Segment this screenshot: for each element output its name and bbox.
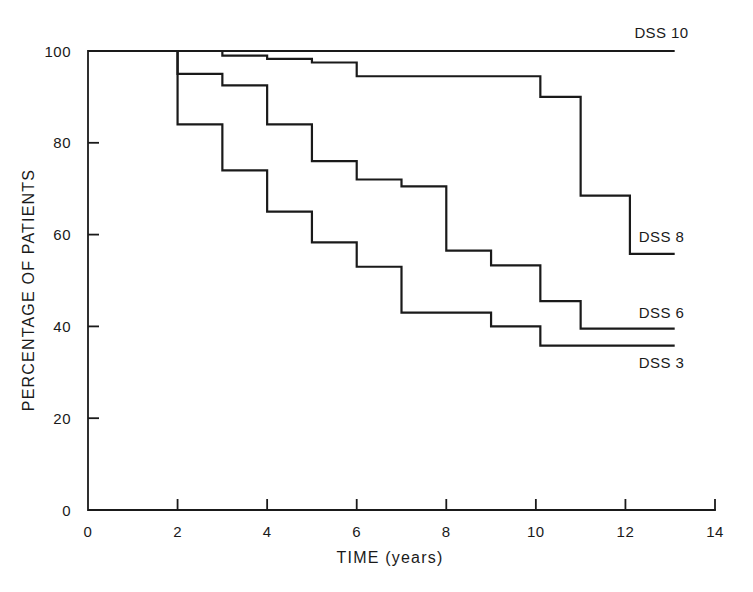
curves-group — [88, 51, 675, 346]
series-label-dss-8: DSS 8 — [639, 228, 684, 245]
curve-dss-6 — [88, 51, 675, 329]
x-tick-label-8: 8 — [442, 523, 451, 540]
x-tick-label-14: 14 — [706, 523, 724, 540]
x-tick-label-0: 0 — [84, 523, 93, 540]
x-tick-label-2: 2 — [173, 523, 182, 540]
chart-canvas: 02040608010002468101214 DSS 10DSS 8DSS 6… — [0, 0, 753, 592]
x-tick-label-10: 10 — [527, 523, 545, 540]
survival-chart-figure: 02040608010002468101214 DSS 10DSS 8DSS 6… — [0, 0, 753, 592]
x-tick-label-12: 12 — [617, 523, 635, 540]
x-tick-label-6: 6 — [352, 523, 361, 540]
x-axis-title: TIME (years) — [337, 549, 444, 566]
x-tick-label-4: 4 — [263, 523, 272, 540]
curve-dss-8 — [88, 51, 675, 254]
y-tick-label-80: 80 — [53, 134, 71, 151]
y-tick-label-0: 0 — [62, 502, 71, 519]
curve-dss-3 — [88, 51, 675, 346]
series-label-dss-6: DSS 6 — [639, 304, 684, 321]
y-tick-label-40: 40 — [53, 318, 71, 335]
y-axis-title: PERCENTAGE OF PATIENTS — [20, 169, 37, 411]
series-label-dss-3: DSS 3 — [639, 354, 684, 371]
series-labels-group: DSS 10DSS 8DSS 6DSS 3 — [634, 24, 688, 371]
y-tick-label-60: 60 — [53, 226, 71, 243]
tick-labels-group: 02040608010002468101214 — [44, 43, 723, 541]
ticks-group — [88, 143, 715, 510]
y-tick-label-20: 20 — [53, 410, 71, 427]
series-label-dss-10: DSS 10 — [634, 24, 688, 41]
y-tick-label-100: 100 — [44, 43, 71, 60]
